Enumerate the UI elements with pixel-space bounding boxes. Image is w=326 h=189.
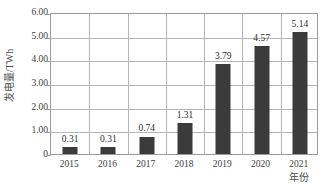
bar-2020[interactable] <box>254 46 269 154</box>
bar-2018[interactable] <box>178 123 193 154</box>
y-axis-title-text: 发电量/TWh <box>2 48 17 101</box>
bar-value-label: 0.31 <box>100 135 117 145</box>
bar-value-label: 4.57 <box>253 34 270 44</box>
gridline-horizontal <box>51 85 317 86</box>
y-tick-mark <box>47 132 51 133</box>
y-tick-mark <box>47 109 51 110</box>
bar-value-label: 3.79 <box>215 52 232 62</box>
y-axis-tick-labels: 6.00 5.00 4.00 3.00 2.00 1.00 0 <box>16 0 48 189</box>
bar-chart: 发电量/TWh 6.00 5.00 4.00 3.00 2.00 1.00 0 <box>0 0 326 189</box>
bar-2015[interactable] <box>63 147 78 154</box>
x-tick-label-2016: 2016 <box>98 160 117 170</box>
y-tick-label: 6.00 <box>18 8 48 18</box>
gridline-horizontal <box>51 61 317 62</box>
gridline-vertical <box>242 14 243 154</box>
y-tick-mark <box>47 38 51 39</box>
x-tick-label-2020: 2020 <box>251 160 270 170</box>
gridline-vertical <box>204 14 205 154</box>
x-tick-label-2021: 2021 <box>289 160 308 170</box>
bar-value-label: 0.31 <box>62 135 79 145</box>
bar-2017[interactable] <box>139 137 154 155</box>
y-tick-mark <box>47 85 51 86</box>
plot-area: 0.31 0.31 0.74 1.31 3.79 4.57 5.14 <box>50 13 318 155</box>
gridline-vertical <box>89 14 90 154</box>
gridline-vertical <box>166 14 167 154</box>
bar-2021[interactable] <box>292 32 307 154</box>
bar-value-label: 0.74 <box>138 124 155 134</box>
gridline-horizontal <box>51 38 317 39</box>
bar-value-label: 1.31 <box>177 111 194 121</box>
y-tick-label: 2.00 <box>18 103 48 113</box>
y-tick-label: 4.00 <box>18 56 48 66</box>
x-axis-title: 年份 <box>289 173 309 183</box>
y-tick-label: 5.00 <box>18 32 48 42</box>
bar-value-label: 5.14 <box>292 20 309 30</box>
gridline-vertical <box>128 14 129 154</box>
y-tick-label: 3.00 <box>18 79 48 89</box>
bar-2019[interactable] <box>216 64 231 154</box>
x-tick-label-2015: 2015 <box>60 160 79 170</box>
y-tick-label: 0 <box>18 150 48 160</box>
x-tick-label-2018: 2018 <box>175 160 194 170</box>
y-tick-mark <box>47 14 51 15</box>
x-tick-label-2019: 2019 <box>213 160 232 170</box>
bar-2016[interactable] <box>101 147 116 154</box>
y-tick-mark <box>47 155 51 156</box>
y-tick-label: 1.00 <box>18 127 48 137</box>
x-tick-label-2017: 2017 <box>136 160 155 170</box>
y-tick-mark <box>47 61 51 62</box>
gridline-vertical <box>281 14 282 154</box>
